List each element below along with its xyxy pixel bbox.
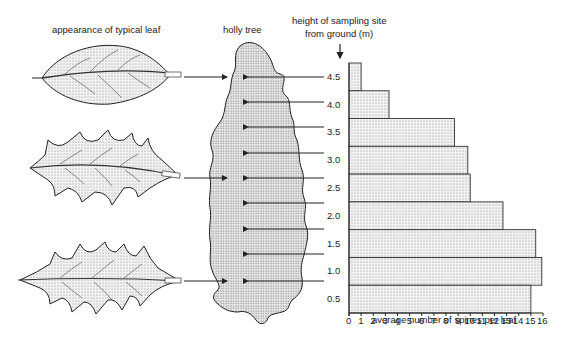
bar-2.0 [349, 202, 503, 230]
x-tick-5: 5 [407, 315, 412, 326]
bar-1.5 [349, 230, 536, 258]
x-tick-9: 9 [455, 315, 460, 326]
height-label-0.5: 0.5 [327, 293, 340, 304]
leaf-heading: appearance of typical leaf [52, 24, 160, 35]
x-tick-11: 11 [476, 315, 486, 326]
x-tick-0: 0 [346, 315, 351, 326]
x-tick-1: 1 [358, 315, 363, 326]
x-tick-13: 13 [501, 315, 512, 326]
x-tick-4: 4 [395, 315, 400, 326]
bar-3.0 [349, 146, 468, 174]
spiny-leaf-low-drawing [18, 242, 181, 314]
height-heading-line2: from ground (m) [305, 28, 373, 39]
x-tick-14: 14 [513, 315, 524, 326]
figure-canvas [0, 0, 564, 338]
x-tick-12: 12 [489, 315, 500, 326]
bar-1.0 [349, 257, 542, 285]
height-label-4.0: 4.0 [327, 99, 340, 110]
x-tick-15: 15 [525, 315, 536, 326]
bar-2.5 [349, 174, 470, 202]
spiny-leaf-mid-drawing [30, 130, 180, 205]
height-heading-line1: height of sampling site [292, 15, 387, 26]
x-tick-16: 16 [537, 315, 548, 326]
height-label-2.0: 2.0 [327, 210, 340, 221]
height-label-1.5: 1.5 [327, 238, 340, 249]
x-tick-8: 8 [443, 315, 448, 326]
x-tick-3: 3 [382, 315, 387, 326]
height-label-3.5: 3.5 [327, 126, 340, 137]
x-tick-7: 7 [431, 315, 436, 326]
x-tick-6: 6 [419, 315, 424, 326]
height-label-1.0: 1.0 [327, 265, 340, 276]
bar-chart [349, 63, 542, 313]
smooth-leaf-drawing [32, 45, 181, 104]
x-tick-10: 10 [464, 315, 475, 326]
tree-heading: holly tree [223, 24, 262, 35]
bar-3.5 [349, 119, 454, 147]
height-label-3.0: 3.0 [327, 154, 340, 165]
height-label-4.5: 4.5 [327, 71, 340, 82]
height-label-2.5: 2.5 [327, 182, 340, 193]
x-tick-2: 2 [370, 315, 375, 326]
bar-0.5 [349, 285, 531, 313]
bar-4.0 [349, 91, 389, 119]
bar-4.5 [349, 63, 361, 91]
